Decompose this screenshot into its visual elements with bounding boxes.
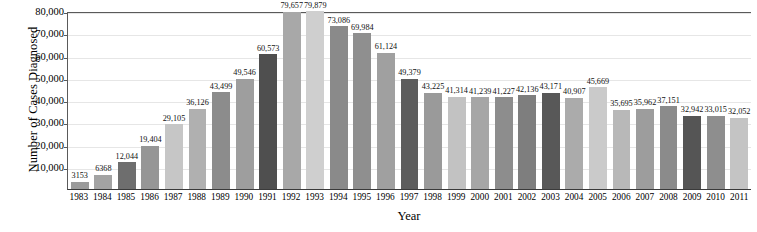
bar[interactable] [565,98,583,189]
bar-value-label: 32,942 [681,106,704,114]
bar-value-label: 79,879 [304,2,327,10]
bar[interactable] [518,95,536,189]
bar-slot: 61,124 [374,13,398,189]
bar-slot: 40,907 [563,13,587,189]
bar-value-label: 35,695 [610,100,633,108]
x-axis-tick-label: 2009 [683,193,702,202]
bar[interactable] [377,53,395,189]
bar[interactable] [589,87,607,189]
bar[interactable] [424,93,442,189]
bar-slot: 43,171 [539,13,563,189]
bar-slot: 60,573 [256,13,280,189]
bar[interactable] [471,97,489,189]
bar-slot: 12,044 [115,13,139,189]
bar-value-label: 49,379 [398,69,421,77]
bar-value-label: 43,171 [540,83,563,91]
bar[interactable] [448,97,466,189]
bar-slot: 19,404 [139,13,163,189]
bar[interactable] [330,26,348,189]
x-axis-tick-label: 1989 [211,193,230,202]
bar[interactable] [259,54,277,189]
bar[interactable] [71,182,89,189]
bar-slot: 43,499 [209,13,233,189]
x-axis-tick-label: 2011 [730,193,748,202]
y-axis-tick-label: 70,000 [14,29,64,40]
x-axis-tick-label: 1984 [93,193,112,202]
x-axis-tick-label: 2001 [494,193,513,202]
bar[interactable] [94,175,112,189]
bar[interactable] [683,116,701,189]
x-axis-tick-label: 1991 [258,193,277,202]
bar-value-label: 41,314 [445,87,468,95]
bar-value-label: 79,657 [280,2,303,10]
bar-value-label: 41,227 [492,88,515,96]
x-axis-tick-label: 1990 [235,193,254,202]
bar-slot: 37,151 [657,13,681,189]
y-axis-tick-labels: 10,00020,00030,00040,00050,00060,00070,0… [14,0,64,190]
x-axis-tick-label: 2004 [565,193,584,202]
x-axis-tick-label: 1987 [164,193,183,202]
x-axis-tick-label: 2005 [588,193,607,202]
x-axis-tick-label: 1992 [282,193,301,202]
bar-slot: 32,942 [680,13,704,189]
bar-value-label: 49,546 [233,69,256,77]
bar-value-label: 32,052 [728,108,751,116]
x-axis-tick-label: 2008 [659,193,678,202]
y-axis-tick-label: 10,000 [14,163,64,174]
bar-value-label: 6368 [95,165,111,173]
bar-value-label: 37,151 [657,97,680,105]
bar[interactable] [118,162,136,189]
bar[interactable] [212,92,230,189]
bar-slot: 29,105 [162,13,186,189]
bar-value-label: 42,136 [516,86,539,94]
x-axis-tick-label: 2002 [518,193,537,202]
bar-slot: 41,239 [468,13,492,189]
bar[interactable] [283,12,301,189]
plot-area: 3153636812,04419,40429,10536,12643,49949… [67,12,751,190]
x-axis-tick-labels: 1983198419851986198719881989199019911992… [67,193,751,209]
bar[interactable] [660,106,678,189]
bar-value-label: 43,499 [210,83,233,91]
bar-value-label: 61,124 [375,43,398,51]
x-axis-tick-label: 2010 [706,193,725,202]
bar[interactable] [189,109,207,189]
bar-value-label: 43,225 [422,83,445,91]
bar[interactable] [401,79,419,189]
x-axis-tick-label: 1995 [353,193,372,202]
bar-slot: 6368 [92,13,116,189]
bar-slot: 41,314 [445,13,469,189]
bar-slot: 49,379 [398,13,422,189]
bar-slot: 79,879 [304,13,328,189]
bar-slot: 73,086 [327,13,351,189]
bar[interactable] [165,124,183,189]
bar[interactable] [542,93,560,189]
x-axis-tick-label: 2003 [541,193,560,202]
y-axis-tick-label: 20,000 [14,140,64,151]
bar[interactable] [141,146,159,189]
bar[interactable] [636,109,654,189]
bar-slot: 42,136 [515,13,539,189]
x-axis-tick-label: 1985 [117,193,136,202]
y-axis-tick-label: 40,000 [14,96,64,107]
x-axis-tick-label: 1999 [447,193,466,202]
bar[interactable] [306,11,324,189]
bar-slot: 43,225 [421,13,445,189]
bar[interactable] [707,116,725,189]
bar-slot: 32,052 [727,13,751,189]
bar-slot: 3153 [68,13,92,189]
x-axis-tick-label: 1994 [329,193,348,202]
bar-slot: 33,015 [704,13,728,189]
bar[interactable] [613,110,631,189]
x-axis-tick-label: 1998 [423,193,442,202]
bar[interactable] [236,79,254,189]
bar[interactable] [495,97,513,189]
x-axis-tick-label: 2006 [612,193,631,202]
bar-value-label: 29,105 [163,115,186,123]
x-axis-tick-label: 1988 [187,193,206,202]
bar-value-label: 19,404 [139,136,162,144]
bar[interactable] [730,118,748,189]
x-axis-tick-label: 1996 [376,193,395,202]
x-axis-tick-label: 1986 [140,193,159,202]
bar-value-label: 73,086 [328,17,351,25]
bar[interactable] [353,33,371,189]
